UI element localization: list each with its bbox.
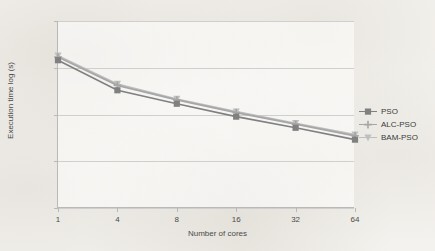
x-tick-label: 8 (175, 215, 179, 224)
x-tick-label: 16 (232, 215, 241, 224)
x-tick-mark (177, 208, 178, 212)
plus-marker (364, 121, 372, 129)
square-marker (293, 125, 299, 131)
x-tick-label: 32 (291, 215, 300, 224)
x-tick-mark (296, 208, 297, 212)
triangle-marker (364, 134, 371, 141)
square-marker (55, 57, 61, 63)
series-pso (55, 57, 358, 143)
x-tick-label: 1 (56, 215, 60, 224)
triangle-marker (359, 132, 377, 143)
plot-area: 110100100010000 148163264 (57, 21, 354, 208)
series-plot (58, 21, 355, 208)
x-tick-label: 4 (115, 215, 119, 224)
square-marker (352, 137, 358, 143)
chart-legend: PSOALC-PSOBAM-PSO (359, 105, 433, 144)
x-tick-mark (355, 208, 356, 212)
square-marker (365, 109, 371, 115)
series-line (58, 57, 355, 136)
legend-item-bam-pso[interactable]: BAM-PSO (359, 131, 433, 144)
execution-time-chart: Execution time log (s) 110100100010000 1… (0, 0, 435, 251)
x-tick-mark (117, 208, 118, 212)
legend-label: BAM-PSO (381, 133, 418, 142)
x-tick-mark (58, 208, 59, 212)
x-tick-mark (236, 208, 237, 212)
legend-label: PSO (381, 107, 398, 116)
legend-item-alc-pso[interactable]: ALC-PSO (359, 118, 433, 131)
legend-item-pso[interactable]: PSO (359, 105, 433, 118)
square-marker (174, 101, 180, 107)
plus-marker (359, 119, 377, 130)
gridline (58, 208, 354, 209)
y-axis-title: Execution time log (s) (6, 62, 15, 139)
square-marker (114, 87, 120, 93)
legend-label: ALC-PSO (381, 120, 416, 129)
x-axis-title: Number of cores (0, 229, 435, 238)
square-marker (233, 114, 239, 120)
series-bam-pso (54, 53, 358, 139)
square-marker (359, 106, 377, 117)
series-line (58, 56, 355, 135)
x-tick-label: 64 (351, 215, 360, 224)
